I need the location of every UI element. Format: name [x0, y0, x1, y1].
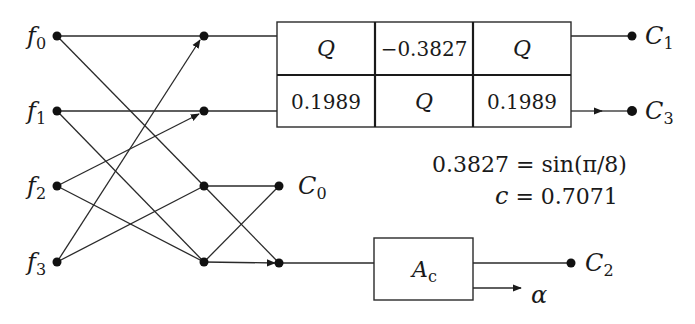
dct-flow-diagram: Q −0.3827 Q 0.1989 Q 0.1989 Ac α f0 f1	[0, 0, 695, 324]
stage1-edges	[57, 36, 204, 262]
node-c3	[627, 106, 637, 116]
svg-text:Ac: Ac	[410, 257, 437, 286]
node-c2	[567, 259, 576, 268]
output-label-c0: C0	[298, 172, 327, 203]
node-f0	[53, 32, 62, 41]
nodes	[53, 32, 638, 268]
node-t1	[275, 259, 284, 268]
edge-f2-s1	[57, 114, 199, 186]
input-label-f1: f1	[25, 97, 46, 128]
scaling-block-label: A	[410, 257, 428, 282]
node-s1	[200, 107, 209, 116]
grid-cell-r1c0: 0.1989	[291, 90, 361, 114]
grid-cell-r1c2: 0.1989	[487, 90, 557, 114]
note-sin-identity: 0.3827 = sin(π/8)	[432, 152, 627, 177]
grid-cell-r0c0: Q	[317, 36, 335, 61]
edge-f3-s0	[57, 40, 200, 262]
node-c0	[275, 182, 284, 191]
edge-f1-s3	[57, 111, 204, 262]
node-f3	[53, 258, 62, 267]
grid-cell-r1c1: Q	[415, 89, 433, 114]
scaling-block-sub: c	[428, 267, 437, 286]
node-s0	[200, 32, 209, 41]
edge-s3-t1	[204, 262, 275, 263]
node-s2	[200, 182, 209, 191]
output-label-c3: C3	[645, 97, 674, 128]
output-label-c2: C2	[585, 249, 614, 280]
alpha-label: α	[531, 281, 547, 309]
input-label-f2: f2	[25, 172, 46, 203]
stage2-edges	[204, 186, 279, 263]
scaling-block: Ac	[374, 238, 473, 300]
rotation-grid: Q −0.3827 Q 0.1989 Q 0.1989	[277, 22, 571, 127]
node-s3	[200, 258, 209, 267]
grid-cell-r0c2: Q	[513, 36, 531, 61]
note-c-value: c = 0.7071	[495, 182, 618, 210]
node-f1	[53, 107, 62, 116]
output-label-c1: C1	[645, 22, 674, 53]
input-label-f3: f3	[25, 248, 46, 279]
grid-cell-r0c1: −0.3827	[381, 37, 468, 61]
input-label-f0: f0	[25, 22, 46, 53]
node-f2	[53, 182, 62, 191]
node-c1	[628, 32, 637, 41]
